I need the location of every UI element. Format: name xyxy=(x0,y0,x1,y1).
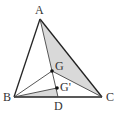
label-d: D xyxy=(54,99,63,113)
triangle-diagram: A B C D G G' xyxy=(0,0,123,124)
point-g xyxy=(50,69,54,73)
label-gprime: G' xyxy=(60,80,71,94)
segment-ab xyxy=(14,19,40,97)
label-b: B xyxy=(3,90,11,104)
point-gprime xyxy=(55,86,59,90)
label-c: C xyxy=(106,90,114,104)
label-g: G xyxy=(55,59,64,73)
label-a: A xyxy=(35,3,44,17)
